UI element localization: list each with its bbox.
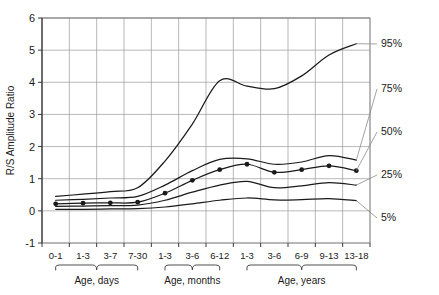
data-point-marker xyxy=(299,167,304,172)
x-category-label: 3-6 xyxy=(185,250,199,261)
x-category-label: 1-3 xyxy=(76,250,90,261)
data-point-marker xyxy=(190,178,195,183)
data-point-marker xyxy=(327,163,332,168)
x-category-label: 6-9 xyxy=(295,250,309,261)
data-point-marker xyxy=(217,167,222,172)
y-tick-label: 5 xyxy=(29,44,35,56)
x-group-label: Age, years xyxy=(278,275,326,286)
data-point-marker xyxy=(135,200,140,205)
legend-label-75pct: 75% xyxy=(381,82,402,94)
x-category-label: 7-30 xyxy=(128,250,147,261)
rs-amplitude-ratio-chart: 6543210-1 R/S Amplitude Ratio 0-11-33-77… xyxy=(0,0,439,295)
data-point-marker xyxy=(81,201,86,206)
x-category-label: 6-12 xyxy=(210,250,229,261)
legend-label-95pct: 95% xyxy=(381,37,402,49)
chart-container: 6543210-1 R/S Amplitude Ratio 0-11-33-77… xyxy=(0,0,439,295)
x-category-label: 0-1 xyxy=(49,250,63,261)
data-point-marker xyxy=(354,168,359,173)
data-point-marker xyxy=(245,162,250,167)
y-tick-label: 0 xyxy=(29,205,35,217)
x-group-label: Age, months xyxy=(164,275,220,286)
y-tick-label: 1 xyxy=(29,173,35,185)
data-point-marker xyxy=(53,201,58,206)
y-tick-label: -1 xyxy=(25,237,35,249)
x-category-label: 13-18 xyxy=(344,250,368,261)
x-category-label: 3-6 xyxy=(267,250,281,261)
y-tick-label: 3 xyxy=(29,108,35,120)
x-group-label: Age, days xyxy=(74,275,118,286)
x-category-label: 3-7 xyxy=(103,250,117,261)
data-point-marker xyxy=(272,170,277,175)
data-point-marker xyxy=(163,191,168,196)
y-tick-label: 2 xyxy=(29,141,35,153)
data-point-marker xyxy=(108,200,113,205)
x-category-label: 9-13 xyxy=(319,250,338,261)
legend-label-25pct: 25% xyxy=(381,168,402,180)
x-category-label: 1-3 xyxy=(158,250,172,261)
legend-label-5pct: 5% xyxy=(381,211,396,223)
legend-label-50pct: 50% xyxy=(381,125,402,137)
y-axis-title: R/S Amplitude Ratio xyxy=(5,85,16,175)
y-tick-label: 4 xyxy=(29,76,35,88)
y-tick-label: 6 xyxy=(29,12,35,24)
x-category-label: 1-3 xyxy=(240,250,254,261)
